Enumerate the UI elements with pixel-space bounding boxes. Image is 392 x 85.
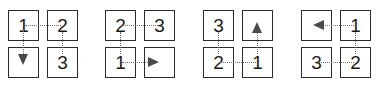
grid-1-cell-top-left[interactable]: 1	[8, 10, 39, 41]
cell-label: 2	[48, 11, 77, 40]
cell-label: 1	[341, 11, 370, 40]
grid-4: 1 3 2	[301, 10, 371, 78]
grid-2-cell-bottom-right[interactable]	[144, 47, 175, 78]
cell-label: 2	[204, 48, 233, 77]
cell-label: 3	[48, 48, 77, 77]
grid-1-cell-bottom-right[interactable]: 3	[47, 47, 78, 78]
cell-label: 3	[145, 11, 174, 40]
grid-3-cell-top-left[interactable]: 3	[203, 10, 234, 41]
cell-label	[9, 48, 38, 77]
grid-4-cell-top-right[interactable]: 1	[340, 10, 371, 41]
grid-2-cell-top-left[interactable]: 2	[105, 10, 136, 41]
cell-label: 3	[302, 48, 331, 77]
cell-label	[145, 48, 174, 77]
cell-label: 2	[341, 48, 370, 77]
grid-1-cell-top-right[interactable]: 2	[47, 10, 78, 41]
grid-4-cell-bottom-right[interactable]: 2	[340, 47, 371, 78]
grid-3-cell-top-right[interactable]	[242, 10, 273, 41]
grid-2-cell-top-right[interactable]: 3	[144, 10, 175, 41]
grid-3-cell-bottom-right[interactable]: 1	[242, 47, 273, 78]
grid-3: 3 2 1	[203, 10, 273, 78]
grid-1-cell-bottom-left[interactable]	[8, 47, 39, 78]
grid-3-cell-bottom-left[interactable]: 2	[203, 47, 234, 78]
cell-label: 3	[204, 11, 233, 40]
cell-label: 1	[9, 11, 38, 40]
diagram-figure: 1 2 3 2 3 1	[0, 0, 392, 85]
grid-2: 2 3 1	[105, 10, 175, 78]
cell-label: 1	[243, 48, 272, 77]
cell-label: 2	[106, 11, 135, 40]
grid-1: 1 2 3	[8, 10, 78, 78]
cell-label: 1	[106, 48, 135, 77]
cell-label	[302, 11, 331, 40]
cell-label	[243, 11, 272, 40]
grid-4-cell-top-left[interactable]	[301, 10, 332, 41]
grid-2-cell-bottom-left[interactable]: 1	[105, 47, 136, 78]
grid-4-cell-bottom-left[interactable]: 3	[301, 47, 332, 78]
